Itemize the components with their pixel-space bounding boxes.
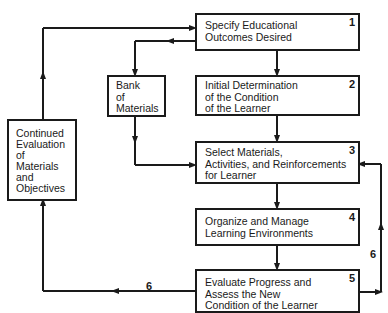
step-text: Initial Determination of the Condition o… xyxy=(205,80,298,115)
step-box-3: Select Materials, Activities, and Reinfo… xyxy=(195,141,360,184)
step-text: Organize and Manage Learning Environment… xyxy=(205,216,313,239)
step-text: Evaluate Progress and Assess the New Con… xyxy=(205,277,318,312)
step-number: 3 xyxy=(349,144,355,156)
continued-evaluation-box: Continued Evaluation of Materials and Ob… xyxy=(7,119,77,201)
step-box-2: Initial Determination of the Condition o… xyxy=(195,75,360,116)
step-box-1: Specify Educational Outcomes Desired 1 xyxy=(195,13,360,51)
step-text: Specify Educational Outcomes Desired xyxy=(205,20,297,43)
step-box-5: Evaluate Progress and Assess the New Con… xyxy=(195,269,360,313)
bank-text: Bank of Materials xyxy=(116,80,159,115)
step-number: 2 xyxy=(349,78,355,90)
step-number: 4 xyxy=(349,211,355,223)
step-number: 5 xyxy=(349,272,355,284)
bank-of-materials-box: Bank of Materials xyxy=(107,75,166,117)
step-text: Select Materials, Activities, and Reinfo… xyxy=(205,147,346,182)
evaluation-text: Continued Evaluation of Materials and Ob… xyxy=(16,128,65,194)
step-number: 1 xyxy=(349,16,355,28)
right-loop-label: 6 xyxy=(370,248,376,260)
step-box-4: Organize and Manage Learning Environment… xyxy=(195,208,360,246)
left-loop-label: 6 xyxy=(146,280,152,292)
